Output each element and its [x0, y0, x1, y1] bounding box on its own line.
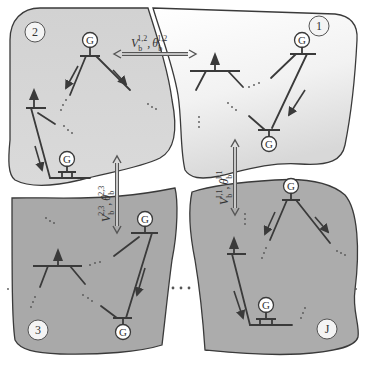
ellipsis-dot [172, 287, 175, 290]
region-badge-label: 1 [316, 19, 322, 33]
generator-label: G [287, 180, 295, 192]
generator-label: G [298, 34, 306, 46]
generator-label: G [119, 326, 127, 338]
generator-label: G [63, 153, 71, 165]
generator-label: G [265, 138, 273, 150]
region-1 [153, 8, 357, 178]
power-system-area-diagram: G G 2 G [0, 0, 367, 365]
region-badge-label: J [325, 322, 330, 336]
ellipsis-dot [188, 287, 191, 290]
generator-label: G [86, 34, 94, 46]
region-badge-label: 2 [32, 25, 38, 39]
generator-label: G [141, 213, 149, 225]
ellipsis-dot [180, 287, 183, 290]
generator-label: G [262, 299, 270, 311]
region-badge-label: 3 [35, 323, 41, 337]
